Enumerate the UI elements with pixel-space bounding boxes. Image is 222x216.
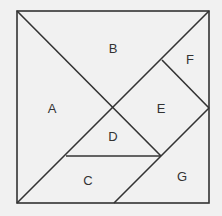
piece-label-b: B (109, 41, 118, 56)
tangram-diagram: B A F E D C G (0, 0, 222, 216)
piece-label-d: D (108, 129, 117, 144)
diagonal-main (17, 11, 161, 156)
piece-label-g: G (177, 169, 187, 184)
piece-label-f: F (186, 52, 194, 67)
piece-label-e: E (157, 101, 166, 116)
edge-f-e (162, 60, 209, 108)
piece-label-c: C (83, 173, 92, 188)
piece-label-a: A (48, 101, 57, 116)
